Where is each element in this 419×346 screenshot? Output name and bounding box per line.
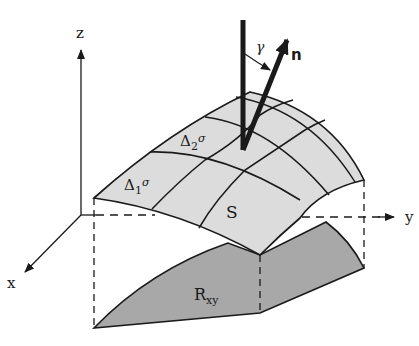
svg-text:2: 2 xyxy=(191,140,198,153)
gamma-label: γ xyxy=(256,39,265,55)
gamma-angle-arc xyxy=(245,54,270,70)
x-axis-label: x xyxy=(7,274,16,292)
svg-text:xy: xy xyxy=(206,294,219,307)
svg-text:1: 1 xyxy=(135,184,142,197)
surface-label: S xyxy=(226,202,238,222)
z-axis-label: z xyxy=(76,24,84,42)
svg-text:σ: σ xyxy=(198,132,206,145)
svg-text:σ: σ xyxy=(142,176,150,189)
y-axis-label: y xyxy=(404,208,414,226)
normal-label: n xyxy=(291,46,302,64)
x-axis xyxy=(25,215,81,272)
svg-text:Δ: Δ xyxy=(180,132,191,150)
svg-text:Δ: Δ xyxy=(124,176,135,194)
surface-projection-diagram: z x y n γ S Δ 1 σ Δ 2 σ R xy xyxy=(0,0,419,346)
